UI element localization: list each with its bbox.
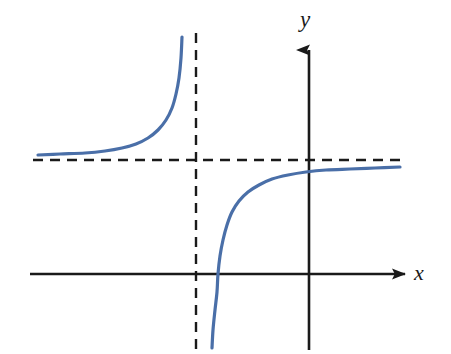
plot-canvas xyxy=(0,0,451,354)
x-axis-label: x xyxy=(414,262,424,284)
y-axis-label: y xyxy=(300,8,310,31)
curve-left-branch xyxy=(38,37,182,155)
rational-function-graph-figure: y x xyxy=(0,0,451,354)
curve-right-branch xyxy=(212,167,400,348)
